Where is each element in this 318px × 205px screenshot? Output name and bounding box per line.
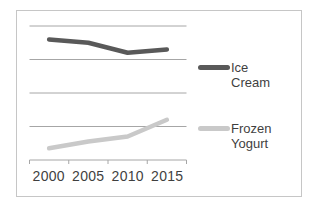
legend-entry-frozen-yogurt: Frozen Yogurt <box>198 121 298 151</box>
legend: Ice Cream Frozen Yogurt <box>198 60 298 151</box>
chart-canvas: 2000 2005 2010 2015 Ice Cream Frozen Yog… <box>0 0 318 205</box>
legend-label-ice-cream: Ice Cream <box>231 60 285 90</box>
legend-entry-ice-cream: Ice Cream <box>198 60 298 90</box>
x-tick-label-2005: 2005 <box>69 167 109 185</box>
legend-label-frozen-yogurt: Frozen Yogurt <box>231 121 285 151</box>
x-tick-label-2015: 2015 <box>148 167 188 185</box>
ice-cream-line-marker <box>198 65 230 70</box>
line-chart-frame: 2000 2005 2010 2015 Ice Cream Frozen Yog… <box>16 10 302 197</box>
x-axis: 2000 2005 2010 2015 <box>29 167 187 185</box>
x-tick-label-2000: 2000 <box>29 167 69 185</box>
ice-cream-series-line <box>49 39 167 52</box>
frozen-yogurt-line-marker <box>198 126 230 131</box>
frozen-yogurt-series-line <box>49 120 167 148</box>
x-tick-label-2010: 2010 <box>108 167 148 185</box>
